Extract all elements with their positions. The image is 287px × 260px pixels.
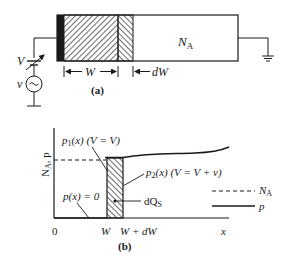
legend-hole-label: p bbox=[258, 200, 265, 212]
legend: NA p bbox=[212, 184, 272, 212]
hole-concentration-curve bbox=[105, 147, 229, 158]
legend-doping-label: NA bbox=[258, 184, 272, 198]
x-tick-w: W bbox=[101, 225, 111, 237]
dqs-annotation: dQS bbox=[144, 195, 162, 209]
delta-width-label: dW bbox=[152, 65, 169, 79]
width-label: W bbox=[85, 65, 96, 79]
metal-contact bbox=[57, 15, 64, 61]
zero-hole-annotation: p(x) = 0 bbox=[62, 190, 100, 203]
charge-increment-dot bbox=[113, 199, 116, 202]
dc-voltage-label: V bbox=[17, 54, 26, 68]
figure: NA V v bbox=[0, 0, 287, 260]
panel-b-caption: (b) bbox=[118, 240, 132, 253]
zero-hole-leader bbox=[77, 203, 89, 218]
incremental-depletion-region bbox=[118, 15, 133, 61]
charge-increment-region bbox=[107, 158, 123, 218]
depletion-region bbox=[64, 15, 118, 61]
width-dimension: W bbox=[64, 65, 118, 79]
p1-annotation: p1(x) (V = V) bbox=[61, 134, 120, 148]
panel-a: NA V v bbox=[17, 15, 274, 106]
y-axis-label: NA, p bbox=[39, 152, 53, 177]
left-circuit: V v bbox=[17, 38, 57, 106]
p2-annotation: p2(x) (V = V + v) bbox=[145, 166, 222, 180]
right-circuit bbox=[238, 38, 274, 61]
x-tick-origin: 0 bbox=[52, 225, 58, 237]
ac-source-icon bbox=[26, 76, 42, 92]
x-axis-label: x bbox=[220, 225, 226, 237]
p2-leader bbox=[123, 174, 144, 186]
delta-width-dimension: dW bbox=[133, 65, 169, 79]
x-tick-w-plus-dw: W + dW bbox=[120, 225, 158, 237]
ground-icon bbox=[262, 56, 274, 61]
ac-voltage-label: v bbox=[17, 77, 23, 91]
variable-dc-source-icon bbox=[26, 55, 44, 70]
panel-a-caption: (a) bbox=[91, 84, 104, 97]
